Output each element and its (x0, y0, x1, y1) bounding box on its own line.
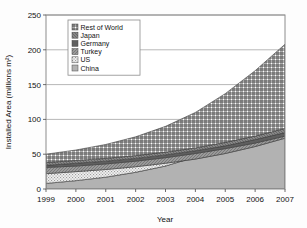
legend-label-japan: Japan (81, 32, 100, 40)
legend-swatch-japan (72, 32, 78, 38)
y-tick-label: 100 (28, 115, 42, 124)
y-axis-ticks: 050100150200250 (28, 11, 46, 194)
legend-swatch-rest-of-world (72, 24, 78, 30)
legend-swatch-turkey (72, 49, 78, 55)
chart-figure: 050100150200250 199920002001200220032004… (0, 0, 307, 228)
y-tick-label: 50 (32, 150, 41, 159)
y-axis-title: Installed Area (millions m²) (4, 55, 13, 150)
legend-label-turkey: Turkey (81, 48, 103, 56)
x-tick-label: 2003 (157, 195, 175, 204)
x-tick-label: 2000 (67, 195, 85, 204)
y-tick-label: 250 (28, 11, 42, 20)
x-tick-label: 1999 (37, 195, 55, 204)
stacked-area-chart: 050100150200250 199920002001200220032004… (0, 0, 307, 228)
y-tick-label: 200 (28, 46, 42, 55)
legend-swatch-china (72, 65, 78, 71)
x-tick-label: 2006 (246, 195, 264, 204)
legend-label-us: US (81, 56, 91, 63)
x-tick-label: 2002 (127, 195, 145, 204)
legend-swatch-germany (72, 40, 78, 46)
x-tick-label: 2004 (186, 195, 204, 204)
x-tick-label: 2005 (216, 195, 234, 204)
legend-label-rest-of-world: Rest of World (81, 24, 123, 31)
y-tick-label: 0 (37, 185, 42, 194)
x-axis-title: Year (157, 215, 174, 224)
x-axis-ticks: 199920002001200220032004200520062007 (37, 189, 294, 204)
legend-label-germany: Germany (81, 40, 110, 48)
legend-swatch-us (72, 57, 78, 63)
y-tick-label: 150 (28, 81, 42, 90)
legend-label-china: China (81, 65, 99, 72)
x-tick-label: 2007 (276, 195, 294, 204)
x-tick-label: 2001 (97, 195, 115, 204)
chart-legend: Rest of WorldJapanGermanyTurkeyUSChina (68, 20, 140, 75)
